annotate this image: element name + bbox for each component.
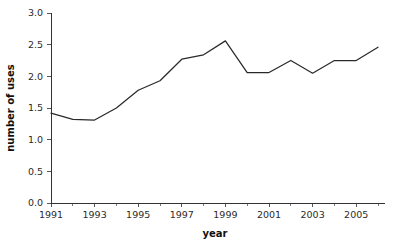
- x-axis-tick-group: 19911993199519971999200120032005: [39, 203, 378, 220]
- x-axis-tick-label: 1991: [39, 209, 63, 220]
- y-axis-tick-label: 1.0: [28, 134, 43, 145]
- y-axis-tick-label: 2.0: [28, 71, 43, 82]
- x-axis-tick-label: 1999: [213, 209, 237, 220]
- data-series-line: [51, 41, 378, 120]
- x-axis-tick-label: 2005: [344, 209, 368, 220]
- y-axis-title: number of uses: [5, 64, 16, 152]
- x-axis-tick-label: 2003: [301, 209, 325, 220]
- x-axis-tick-label: 2001: [257, 209, 281, 220]
- x-axis-title: year: [203, 228, 228, 239]
- x-axis-tick-label: 1995: [126, 209, 150, 220]
- y-axis-tick-group: 0.00.51.01.52.02.53.0: [28, 7, 51, 208]
- y-axis-tick-label: 0.5: [28, 166, 43, 177]
- y-axis-tick-label: 2.5: [28, 39, 43, 50]
- x-axis-tick-label: 1993: [83, 209, 107, 220]
- line-chart: 0.00.51.01.52.02.53.0 199119931995199719…: [0, 0, 393, 250]
- y-axis-tick-label: 0.0: [28, 197, 43, 208]
- y-axis-tick-label: 1.5: [28, 102, 43, 113]
- chart-canvas: 0.00.51.01.52.02.53.0 199119931995199719…: [0, 0, 393, 250]
- y-axis-tick-label: 3.0: [28, 7, 43, 18]
- x-axis-tick-label: 1997: [170, 209, 194, 220]
